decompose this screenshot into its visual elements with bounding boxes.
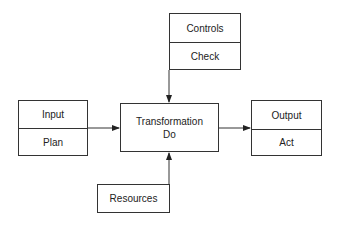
output-act-box: Output Act — [251, 100, 322, 156]
do-label: Do — [163, 128, 176, 141]
resources-box: Resources — [97, 184, 170, 213]
transformation-label: Transformation — [136, 115, 203, 128]
check-label: Check — [170, 42, 240, 70]
input-plan-box: Input Plan — [18, 100, 88, 156]
plan-label: Plan — [19, 128, 87, 156]
input-label: Input — [19, 101, 87, 128]
act-label: Act — [252, 129, 321, 156]
transformation-do-box: Transformation Do — [120, 103, 219, 152]
resources-label: Resources — [98, 185, 169, 212]
controls-label: Controls — [170, 14, 240, 42]
output-label: Output — [252, 101, 321, 129]
controls-check-box: Controls Check — [169, 13, 241, 70]
